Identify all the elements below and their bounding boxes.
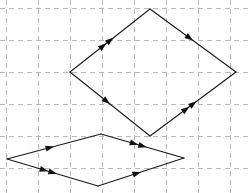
lower-rhombus-lower-right-edge-arrowhead-0 — [132, 172, 141, 178]
figure-canvas — [0, 0, 249, 193]
shapes-layer — [7, 9, 236, 186]
upper-rhombus-upper-left-edge-arrowhead-1 — [105, 38, 114, 46]
upper-rhombus-upper-right-edge-arrowhead-0 — [184, 33, 193, 40]
geometry-diagram — [0, 0, 249, 193]
upper-rhombus-lower-right-edge-arrowhead-1 — [188, 101, 197, 108]
lower-rhombus-upper-right-edge-arrowhead-1 — [138, 142, 147, 148]
lower-rhombus-upper-left-edge-arrowhead-0 — [45, 146, 54, 152]
upper-rhombus-upper-left-edge-arrowhead-0 — [98, 43, 107, 51]
lower-rhombus — [7, 134, 184, 186]
lower-rhombus-lower-left-edge-arrowhead-0 — [39, 166, 48, 172]
upper-rhombus-lower-right-edge-arrowhead-0 — [181, 107, 190, 114]
upper-rhombus-lower-left-edge-arrowhead-0 — [101, 96, 110, 104]
lower-rhombus-upper-right-edge-arrowhead-0 — [129, 140, 138, 146]
lower-rhombus-lower-left-edge-arrowhead-1 — [48, 168, 57, 174]
